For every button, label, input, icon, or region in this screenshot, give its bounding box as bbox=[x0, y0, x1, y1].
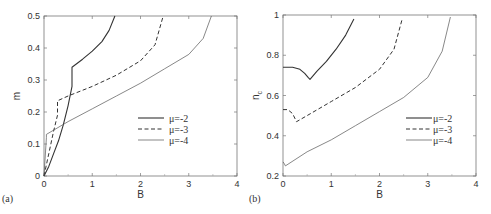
legend-label: μ=-4 bbox=[433, 135, 452, 146]
x-tick-label: 0 bbox=[280, 179, 285, 189]
y-tick-label: 0.4 bbox=[27, 43, 40, 53]
legend-label: μ=-2 bbox=[169, 113, 188, 124]
x-tick-label: 3 bbox=[186, 179, 191, 189]
y-tick-label: 0.8 bbox=[266, 50, 279, 60]
x-tick-label: 4 bbox=[234, 179, 239, 189]
y-tick-label: 0 bbox=[35, 171, 40, 181]
legend-label: μ=-2 bbox=[433, 113, 452, 124]
figure: 0123400.10.20.30.40.5Bm(a)μ=-2μ=-3μ=-4 0… bbox=[0, 0, 491, 214]
series-line-mu-4 bbox=[283, 17, 450, 166]
y-axis-label: nc bbox=[250, 90, 263, 100]
plot-frame bbox=[283, 15, 476, 176]
y-tick-label: 1 bbox=[274, 10, 279, 20]
y-tick-label: 0.2 bbox=[266, 171, 279, 181]
x-tick-label: 4 bbox=[473, 179, 478, 189]
x-tick-label: 1 bbox=[90, 179, 95, 189]
series-line-mu-4 bbox=[44, 16, 211, 176]
y-tick-label: 0.4 bbox=[266, 131, 279, 141]
series-line-mu-3 bbox=[44, 16, 163, 176]
x-tick-label: 2 bbox=[377, 179, 382, 189]
y-tick-label: 0.2 bbox=[27, 107, 40, 117]
y-tick-label: 0.5 bbox=[27, 11, 40, 21]
x-tick-label: 2 bbox=[138, 179, 143, 189]
x-tick-label: 3 bbox=[425, 179, 430, 189]
legend-label: μ=-3 bbox=[433, 124, 452, 135]
series-line-mu-2 bbox=[283, 19, 354, 79]
x-axis-label: B bbox=[137, 189, 144, 200]
panel-b-chart: 012340.20.40.60.81Bnc(b)μ=-2μ=-3μ=-4 bbox=[249, 10, 479, 205]
x-tick-label: 0 bbox=[41, 179, 46, 189]
legend-label: μ=-4 bbox=[169, 135, 188, 146]
y-tick-label: 0.6 bbox=[266, 91, 279, 101]
x-axis-label: B bbox=[376, 189, 383, 200]
panel-label: (a) bbox=[2, 193, 13, 205]
panel-a-chart: 0123400.10.20.30.40.5Bm(a)μ=-2μ=-3μ=-4 bbox=[2, 11, 240, 205]
x-tick-label: 1 bbox=[329, 179, 334, 189]
y-tick-label: 0.1 bbox=[27, 139, 40, 149]
panel-label: (b) bbox=[249, 193, 261, 205]
y-axis-label: m bbox=[11, 92, 22, 100]
series-line-mu-2 bbox=[44, 16, 115, 176]
y-tick-label: 0.3 bbox=[27, 75, 40, 85]
plot-frame bbox=[44, 16, 237, 176]
legend-label: μ=-3 bbox=[169, 124, 188, 135]
